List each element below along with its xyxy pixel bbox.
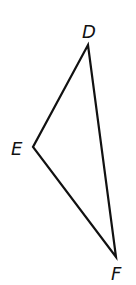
triangle-diagram: D E F [0,0,136,285]
vertex-label-d: D [82,21,96,42]
vertex-label-f: F [111,263,122,284]
vertex-label-e: E [11,138,23,159]
triangle-def [33,45,116,257]
